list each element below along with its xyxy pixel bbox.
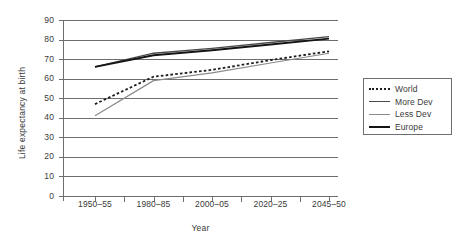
legend-label: More Dev xyxy=(395,98,433,107)
series-line-europe xyxy=(95,39,329,67)
line-chart-figure: Life expectancy at birth Year 9080706050… xyxy=(0,0,458,243)
legend-label: Less Dev xyxy=(395,110,431,119)
legend-entry[interactable]: World xyxy=(364,83,451,96)
legend-entry[interactable]: More Dev xyxy=(364,96,451,109)
bold-line-swatch xyxy=(369,122,390,132)
solid-line-swatch xyxy=(369,97,390,107)
legend-entry[interactable]: Less Dev xyxy=(364,108,451,121)
legend-entry[interactable]: Europe xyxy=(364,121,451,134)
dotted-line-swatch xyxy=(369,84,390,94)
series-line-less-dev xyxy=(95,53,329,116)
chart-legend: WorldMore DevLess DevEurope xyxy=(363,78,452,135)
legend-label: Europe xyxy=(395,123,423,132)
legend-label: World xyxy=(395,85,418,94)
light-line-swatch xyxy=(369,109,390,119)
